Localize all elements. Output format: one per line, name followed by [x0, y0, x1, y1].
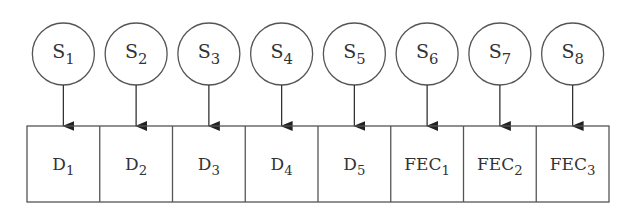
arrows: [63, 85, 572, 126]
packet-label: FEC1: [404, 154, 450, 178]
packet-label: D3: [198, 154, 220, 178]
packet-cell: FEC1: [391, 126, 450, 202]
symbol-node: S8: [542, 23, 604, 85]
packet-cell: D1: [52, 154, 74, 178]
packet-cell: D4: [245, 126, 292, 202]
packet-cell: D2: [100, 126, 147, 202]
packet-label: D1: [52, 154, 74, 178]
symbol-nodes: S1S2S3S4S5S6S7S8: [32, 23, 603, 85]
packet-cell: FEC3: [536, 126, 595, 202]
symbol-node: S6: [396, 23, 458, 85]
symbol-node: S2: [105, 23, 167, 85]
packet-label: FEC3: [550, 154, 596, 178]
packet-cell: FEC2: [464, 126, 523, 202]
packet-label: D2: [125, 154, 147, 178]
packet-label: D4: [271, 154, 293, 178]
symbol-node: S5: [323, 23, 385, 85]
packet-cell: D5: [318, 126, 365, 202]
packet-cell: D3: [173, 126, 220, 202]
symbol-node: S3: [178, 23, 240, 85]
symbol-node: S7: [469, 23, 531, 85]
symbol-node: S1: [32, 23, 94, 85]
packet-label: D5: [343, 154, 365, 178]
symbol-packet-diagram: S1S2S3S4S5S6S7S8 D1D2D3D4D5FEC1FEC2FEC3: [0, 0, 627, 221]
packet-row: D1D2D3D4D5FEC1FEC2FEC3: [27, 126, 609, 202]
packet-label: FEC2: [477, 154, 523, 178]
symbol-node: S4: [251, 23, 313, 85]
